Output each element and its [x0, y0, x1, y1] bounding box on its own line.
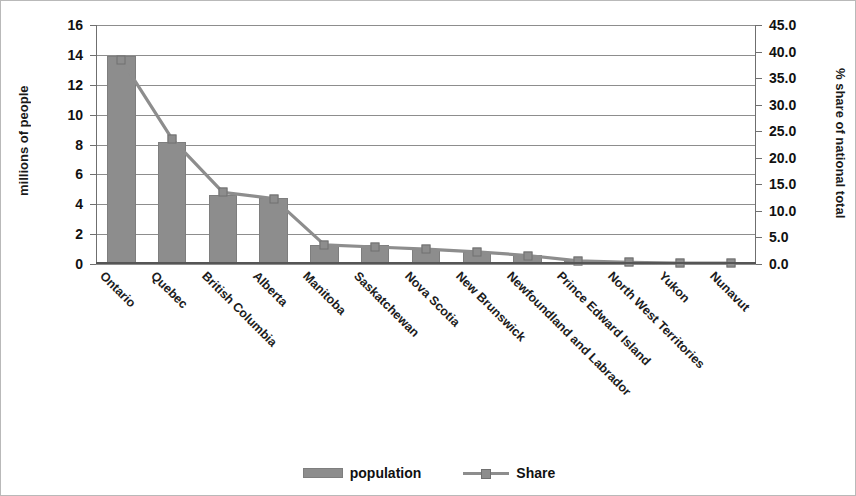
- line-series-share: [96, 25, 756, 264]
- bar-swatch-icon: [303, 468, 343, 478]
- y-tick-right: [756, 25, 762, 26]
- y-tick-right: [756, 184, 762, 185]
- chart-frame: millions of people % share of national t…: [0, 0, 856, 496]
- y-axis-left-tick-label: 12: [67, 78, 83, 92]
- line-marker: [117, 55, 126, 64]
- line-marker: [218, 188, 227, 197]
- y-axis-right-title: % share of national total: [831, 36, 849, 251]
- line-marker: [269, 194, 278, 203]
- y-axis-left-tick-label: 0: [75, 257, 83, 271]
- y-axis-left-tick-label: 2: [75, 227, 83, 241]
- y-axis-right-tick-label: 25.0: [769, 124, 796, 138]
- plot-area: [96, 25, 756, 264]
- y-axis-right-tick-label: 40.0: [769, 45, 796, 59]
- y-axis-right-tick-label: 5.0: [769, 230, 788, 244]
- legend-item-share[interactable]: Share: [463, 465, 555, 481]
- y-axis-left-tick-label: 10: [67, 108, 83, 122]
- x-axis-baseline: [96, 262, 756, 264]
- y-tick-right: [756, 211, 762, 212]
- y-axis-right-tick-label: 15.0: [769, 177, 796, 191]
- line-marker: [422, 245, 431, 254]
- x-axis-category-label: Manitoba: [301, 269, 350, 318]
- x-axis-category-label: North West Territories: [605, 269, 707, 371]
- y-tick-right: [756, 158, 762, 159]
- x-axis-category-label: Ontario: [97, 269, 138, 310]
- legend-item-population[interactable]: population: [303, 465, 422, 481]
- line-swatch-icon: [463, 468, 509, 479]
- y-tick-right: [756, 78, 762, 79]
- x-axis-category-labels: OntarioQuebecBritish ColumbiaAlbertaMani…: [96, 269, 756, 419]
- x-axis-category-label: Quebec: [148, 269, 190, 311]
- y-axis-left-tick-labels: 0246810121416: [41, 25, 83, 264]
- y-axis-right-tick-label: 45.0: [769, 18, 796, 32]
- y-axis-right-tick-label: 0.0: [769, 257, 788, 271]
- x-axis-category-label: Alberta: [250, 269, 290, 309]
- y-axis-right-tick-label: 20.0: [769, 151, 796, 165]
- y-tick-right: [756, 237, 762, 238]
- line-marker: [472, 247, 481, 256]
- x-axis-category-label: Yukon: [656, 269, 692, 305]
- y-tick-left: [90, 264, 96, 265]
- y-axis-right-tick-label: 35.0: [769, 71, 796, 85]
- y-tick-right: [756, 105, 762, 106]
- y-axis-right-tick-label: 10.0: [769, 204, 796, 218]
- y-axis-left-tick-label: 8: [75, 138, 83, 152]
- chart-legend: population Share: [1, 465, 856, 481]
- y-axis-left-tick-label: 6: [75, 167, 83, 181]
- line-marker: [371, 243, 380, 252]
- legend-label-population: population: [350, 465, 422, 481]
- share-line-path: [121, 60, 730, 264]
- y-tick-right: [756, 131, 762, 132]
- legend-label-share: Share: [516, 465, 555, 481]
- line-marker: [168, 135, 177, 144]
- y-axis-right-tick-label: 30.0: [769, 98, 796, 112]
- y-axis-left-title: millions of people: [14, 51, 32, 231]
- line-marker: [523, 251, 532, 260]
- y-tick-right: [756, 52, 762, 53]
- line-marker: [320, 240, 329, 249]
- y-axis-left-tick-label: 14: [67, 48, 83, 62]
- y-axis-left-tick-label: 4: [75, 197, 83, 211]
- y-axis-right-tick-labels: 0.05.010.015.020.025.030.035.040.045.0: [769, 25, 829, 264]
- x-axis-category-label: Nunavut: [707, 269, 752, 314]
- y-axis-left-tick-label: 16: [67, 18, 83, 32]
- y-tick-right: [756, 264, 762, 265]
- x-axis-category-label: Prince Edward Island: [554, 269, 653, 368]
